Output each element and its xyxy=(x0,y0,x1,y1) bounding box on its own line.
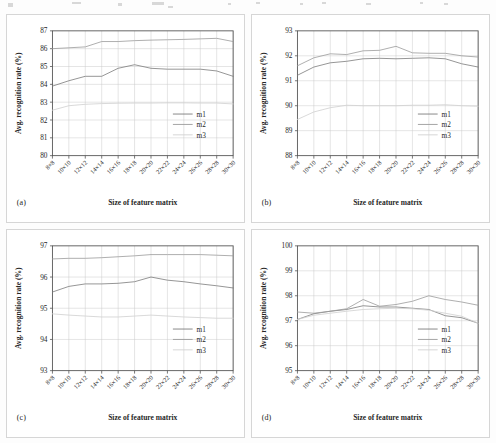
svg-text:90: 90 xyxy=(285,101,293,110)
svg-text:30×30: 30×30 xyxy=(220,374,236,390)
svg-text:Size of feature matrix: Size of feature matrix xyxy=(108,413,177,422)
svg-text:20×20: 20×20 xyxy=(383,159,399,175)
svg-text:28×28: 28×28 xyxy=(449,374,465,390)
svg-text:94: 94 xyxy=(40,335,48,344)
svg-text:m2: m2 xyxy=(197,120,207,129)
svg-text:(a): (a) xyxy=(17,198,26,207)
svg-text:87: 87 xyxy=(40,26,48,35)
svg-text:100: 100 xyxy=(282,241,293,250)
svg-text:16×16: 16×16 xyxy=(350,159,366,175)
svg-text:20×20: 20×20 xyxy=(138,159,154,175)
svg-text:30×30: 30×30 xyxy=(465,159,481,175)
svg-text:m1: m1 xyxy=(442,110,452,119)
svg-text:8×8: 8×8 xyxy=(44,374,56,386)
svg-text:28×28: 28×28 xyxy=(204,374,220,390)
chart-panel-c: 93949596978×810×1012×1214×1416×1618×1820… xyxy=(6,229,245,438)
chart-svg-b: 8889909192938×810×1012×1214×1416×1618×18… xyxy=(252,15,489,222)
chart-svg-d: 95969798991008×810×1012×1214×1416×1618×1… xyxy=(252,230,489,437)
svg-text:22×22: 22×22 xyxy=(154,374,170,390)
svg-text:Size of feature matrix: Size of feature matrix xyxy=(108,198,177,207)
svg-text:m1: m1 xyxy=(197,325,207,334)
svg-text:(d): (d) xyxy=(262,413,272,422)
svg-text:30×30: 30×30 xyxy=(220,159,236,175)
svg-text:83: 83 xyxy=(40,98,48,107)
svg-text:m2: m2 xyxy=(442,120,452,129)
svg-text:m2: m2 xyxy=(442,335,452,344)
svg-text:10×10: 10×10 xyxy=(56,374,72,390)
svg-text:m3: m3 xyxy=(442,346,452,355)
svg-text:m3: m3 xyxy=(197,131,207,140)
svg-text:12×12: 12×12 xyxy=(72,374,88,390)
svg-text:m3: m3 xyxy=(442,131,452,140)
chart-panel-a: 80818283848586878×810×1012×1214×1416×161… xyxy=(6,14,245,223)
svg-text:m2: m2 xyxy=(197,335,207,344)
svg-text:99: 99 xyxy=(285,266,293,275)
chart-svg-a: 80818283848586878×810×1012×1214×1416×161… xyxy=(7,15,244,222)
svg-text:12×12: 12×12 xyxy=(317,374,333,390)
svg-text:24×24: 24×24 xyxy=(171,373,188,390)
svg-text:26×26: 26×26 xyxy=(432,159,448,175)
panel-grid: 80818283848586878×810×1012×1214×1416×161… xyxy=(6,14,490,438)
svg-text:96: 96 xyxy=(40,273,48,282)
svg-text:85: 85 xyxy=(40,62,48,71)
svg-text:91: 91 xyxy=(285,76,293,85)
svg-text:8×8: 8×8 xyxy=(44,159,56,171)
svg-text:24×24: 24×24 xyxy=(171,158,188,175)
svg-text:(b): (b) xyxy=(262,198,272,207)
svg-text:22×22: 22×22 xyxy=(399,374,415,390)
svg-text:18×18: 18×18 xyxy=(121,374,137,390)
svg-text:m1: m1 xyxy=(442,325,452,334)
svg-text:m3: m3 xyxy=(197,346,207,355)
svg-text:86: 86 xyxy=(40,44,48,53)
svg-text:80: 80 xyxy=(40,151,48,160)
svg-text:98: 98 xyxy=(285,291,293,300)
svg-text:89: 89 xyxy=(285,126,293,135)
svg-text:26×26: 26×26 xyxy=(432,374,448,390)
svg-text:Avg. recognition rate (%): Avg. recognition rate (%) xyxy=(14,267,23,349)
svg-text:8×8: 8×8 xyxy=(289,159,301,171)
svg-text:m1: m1 xyxy=(197,110,207,119)
svg-text:Avg. recognition rate (%): Avg. recognition rate (%) xyxy=(259,52,268,134)
svg-text:14×14: 14×14 xyxy=(334,158,351,175)
svg-text:95: 95 xyxy=(285,366,293,375)
svg-text:16×16: 16×16 xyxy=(105,374,121,390)
svg-text:82: 82 xyxy=(40,116,48,125)
svg-text:93: 93 xyxy=(40,366,48,375)
svg-text:14×14: 14×14 xyxy=(334,373,351,390)
svg-text:8×8: 8×8 xyxy=(289,374,301,386)
chart-svg-c: 93949596978×810×1012×1214×1416×1618×1820… xyxy=(7,230,244,437)
svg-text:18×18: 18×18 xyxy=(366,159,382,175)
svg-text:10×10: 10×10 xyxy=(301,159,317,175)
svg-text:30×30: 30×30 xyxy=(465,374,481,390)
chart-panel-d: 95969798991008×810×1012×1214×1416×1618×1… xyxy=(251,229,490,438)
svg-text:24×24: 24×24 xyxy=(416,158,433,175)
svg-text:28×28: 28×28 xyxy=(204,159,220,175)
svg-text:20×20: 20×20 xyxy=(383,374,399,390)
svg-text:28×28: 28×28 xyxy=(449,159,465,175)
svg-text:88: 88 xyxy=(285,151,293,160)
svg-text:(c): (c) xyxy=(17,413,26,422)
svg-text:97: 97 xyxy=(285,316,293,325)
svg-text:22×22: 22×22 xyxy=(154,159,170,175)
svg-text:18×18: 18×18 xyxy=(121,159,137,175)
svg-text:26×26: 26×26 xyxy=(187,159,203,175)
svg-text:14×14: 14×14 xyxy=(89,373,106,390)
svg-text:20×20: 20×20 xyxy=(138,374,154,390)
svg-text:12×12: 12×12 xyxy=(317,159,333,175)
svg-text:24×24: 24×24 xyxy=(416,373,433,390)
svg-text:81: 81 xyxy=(40,133,48,142)
svg-text:96: 96 xyxy=(285,341,293,350)
svg-text:10×10: 10×10 xyxy=(301,374,317,390)
svg-text:Avg. recognition rate (%): Avg. recognition rate (%) xyxy=(259,267,268,349)
svg-text:16×16: 16×16 xyxy=(350,374,366,390)
figure-root: 80818283848586878×810×1012×1214×1416×161… xyxy=(0,0,496,443)
svg-text:Size of feature matrix: Size of feature matrix xyxy=(353,198,422,207)
svg-text:18×18: 18×18 xyxy=(366,374,382,390)
svg-text:Avg. recognition rate (%): Avg. recognition rate (%) xyxy=(14,52,23,134)
svg-text:95: 95 xyxy=(40,304,48,313)
svg-text:97: 97 xyxy=(40,241,48,250)
svg-text:Size of feature matrix: Size of feature matrix xyxy=(353,413,422,422)
svg-text:14×14: 14×14 xyxy=(89,158,106,175)
svg-text:84: 84 xyxy=(40,80,48,89)
chart-panel-b: 8889909192938×810×1012×1214×1416×1618×18… xyxy=(251,14,490,223)
